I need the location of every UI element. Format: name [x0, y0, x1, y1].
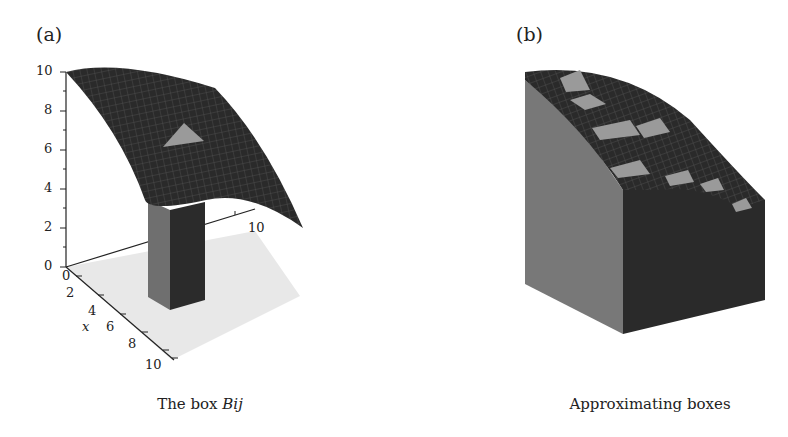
panel-label-b: (b) — [516, 23, 543, 45]
box-bij-left-face — [148, 200, 170, 310]
x-axis-label: x — [82, 319, 89, 334]
caption-a: The box Bij — [140, 395, 260, 413]
x-tick-2: 2 — [66, 285, 74, 300]
x-tick-4: 4 — [88, 303, 96, 318]
z-tick-0: 0 — [44, 258, 52, 273]
x-tick-6: 6 — [106, 319, 114, 334]
figure-canvas — [0, 0, 788, 437]
x-tick-0: 0 — [62, 268, 70, 283]
y-tick-10: 10 — [248, 220, 265, 235]
x-tick-8: 8 — [128, 336, 136, 351]
panel-b — [525, 70, 765, 334]
surface-a — [66, 68, 303, 228]
caption-a-italic: Bij — [222, 395, 242, 413]
z-tick-4: 4 — [44, 180, 52, 195]
caption-a-text: The box — [157, 395, 222, 413]
box-bij-front-face — [170, 202, 205, 310]
panel-label-a: (a) — [36, 23, 62, 45]
z-tick-8: 8 — [44, 102, 52, 117]
caption-b: Approximating boxes — [550, 395, 750, 413]
x-tick-10: 10 — [145, 357, 162, 372]
z-tick-6: 6 — [44, 141, 52, 156]
z-tick-10: 10 — [36, 63, 53, 78]
z-tick-2: 2 — [44, 219, 52, 234]
panel-a — [60, 68, 303, 360]
